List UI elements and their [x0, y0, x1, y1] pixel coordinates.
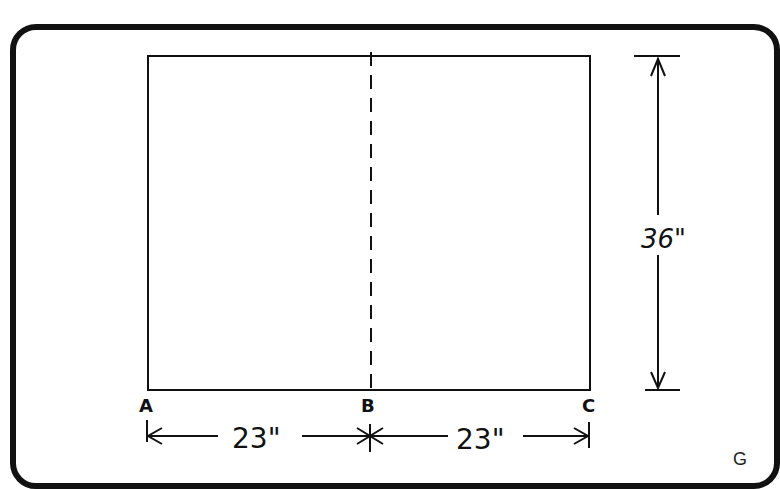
point-c-label: C	[582, 395, 595, 416]
point-a-label: A	[139, 395, 153, 416]
pattern-rectangle	[148, 56, 590, 390]
point-b-label: B	[361, 395, 375, 416]
width-right-label: 23"	[456, 423, 505, 456]
height-dimension	[634, 56, 680, 390]
height-label: 36"	[641, 224, 686, 254]
figure-label: G	[733, 449, 747, 470]
width-left-label: 23"	[232, 422, 281, 455]
width-dimension	[147, 420, 589, 452]
